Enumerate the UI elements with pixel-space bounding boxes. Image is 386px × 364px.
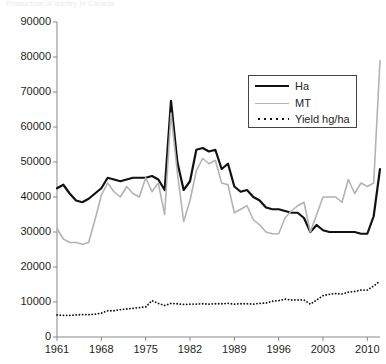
series-line-yield-hg-ha <box>57 281 380 315</box>
y-axis-tick-label: 30000 <box>3 226 51 237</box>
x-axis-tick-label: 1996 <box>259 344 299 355</box>
x-axis-tick-label: 1982 <box>170 344 210 355</box>
legend-label-ha: Ha <box>295 81 309 92</box>
chart-legend: Ha MT Yield hg/ha <box>248 75 357 128</box>
y-axis-tick-label: 90000 <box>3 16 51 27</box>
y-axis-tick-label: 0 <box>3 331 51 342</box>
y-axis-tick-label: 10000 <box>3 296 51 307</box>
y-axis-tick-label: 20000 <box>3 261 51 272</box>
x-axis-tick-label: 1968 <box>81 344 121 355</box>
y-axis-tick-label: 70000 <box>3 86 51 97</box>
y-axis-tick-label: 80000 <box>3 51 51 62</box>
x-axis-tick-label: 1975 <box>126 344 166 355</box>
x-axis-tick-label: 2010 <box>347 344 386 355</box>
plot-area <box>0 0 386 364</box>
dotted-line-black-icon <box>255 114 289 124</box>
legend-item-mt: MT <box>255 96 311 110</box>
x-axis-tick-label: 1989 <box>214 344 254 355</box>
solid-line-black-icon <box>255 81 289 91</box>
legend-label-yield: Yield hg/ha <box>295 114 350 125</box>
legend-item-ha: Ha <box>255 79 309 93</box>
y-axis-tick-label: 50000 <box>3 156 51 167</box>
x-axis-tick-label: 1961 <box>37 344 77 355</box>
legend-item-yield: Yield hg/ha <box>255 112 350 126</box>
solid-line-gray-icon <box>255 98 289 108</box>
y-axis-tick-label: 40000 <box>3 191 51 202</box>
y-axis-tick-label: 60000 <box>3 121 51 132</box>
x-axis-tick-label: 2003 <box>303 344 343 355</box>
chart-container: Production of Barley in Canada 010000200… <box>0 0 386 364</box>
legend-label-mt: MT <box>295 98 311 109</box>
